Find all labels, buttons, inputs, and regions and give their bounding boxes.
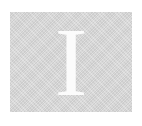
letter-glyph: I [10,12,132,112]
letter-tile: I [10,12,132,112]
